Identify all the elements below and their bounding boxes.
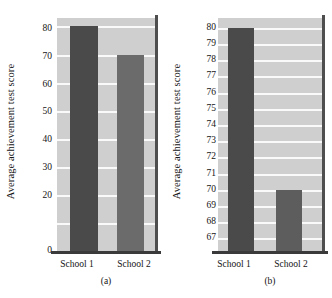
x-axis-line-b: [212, 251, 328, 254]
y-tick-label: 69: [192, 201, 216, 211]
plot-frame-right-a: [155, 15, 158, 254]
x-tick-label-school-2-b: School 2: [261, 260, 321, 270]
x-axis-line-a: [51, 251, 161, 254]
y-tick-label: 78: [192, 55, 216, 65]
plot-area-a: [57, 18, 155, 251]
panel-caption-b: (b): [218, 277, 322, 287]
chart-panel-b: Average achievement test score 80 79 78 …: [166, 0, 332, 298]
y-tick-label: 70: [28, 52, 52, 62]
y-tick-label: 70: [192, 185, 216, 195]
y-tick-label: 77: [192, 72, 216, 82]
bar-school-2-b: [276, 190, 302, 251]
y-axis-ticks-a: 80 70 60 50 40 30 20 0: [28, 0, 52, 298]
y-tick-label: 74: [192, 120, 216, 130]
panel-caption-a: (a): [56, 277, 156, 287]
y-tick-label: 71: [192, 169, 216, 179]
chart-panel-a: Average achievement test score 80 70 60 …: [0, 0, 166, 298]
bar-school-2-a: [117, 55, 144, 252]
y-tick-label: 68: [192, 217, 216, 227]
y-tick-label: 73: [192, 136, 216, 146]
y-tick-label: 30: [28, 163, 52, 173]
plot-frame-right-b: [322, 15, 325, 254]
y-tick-label: 20: [28, 191, 52, 201]
y-tick-label: 79: [192, 39, 216, 49]
y-tick-label: 50: [28, 108, 52, 118]
figure-container: Average achievement test score 80 70 60 …: [0, 0, 332, 298]
y-tick-label: 60: [28, 80, 52, 90]
y-axis-title-b: Average achievement test score: [166, 8, 188, 254]
y-tick-label: 40: [28, 135, 52, 145]
y-tick-label: 76: [192, 88, 216, 98]
y-axis-title-a: Average achievement test score: [0, 8, 22, 254]
x-tick-label-school-2-a: School 2: [104, 260, 164, 270]
x-tick-label-school-1-a: School 1: [47, 260, 107, 270]
y-tick-label: 0: [28, 246, 52, 256]
plot-area-b: [218, 18, 322, 251]
y-tick-label: 75: [192, 104, 216, 114]
x-tick-label-school-1-b: School 1: [204, 260, 264, 270]
y-tick-label: 67: [192, 234, 216, 244]
bar-school-1-a: [70, 26, 98, 251]
y-tick-label: 80: [28, 25, 52, 35]
y-tick-label: 72: [192, 153, 216, 163]
bar-school-1-b: [228, 28, 254, 251]
y-tick-label: 80: [192, 23, 216, 33]
